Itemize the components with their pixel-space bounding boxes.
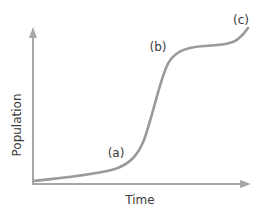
y-axis-arrow-icon xyxy=(29,27,37,38)
y-axis-label: Population xyxy=(10,93,24,156)
x-axis xyxy=(32,180,251,188)
y-axis xyxy=(29,27,37,184)
annotation-b: (b) xyxy=(150,40,167,54)
population-growth-figure: (a) (b) (c) Time Population xyxy=(0,0,266,219)
annotation-a: (a) xyxy=(108,146,125,160)
annotation-c: (c) xyxy=(233,13,249,27)
x-axis-arrow-icon xyxy=(240,180,251,188)
x-axis-label: Time xyxy=(124,193,154,207)
population-curve xyxy=(34,28,248,181)
